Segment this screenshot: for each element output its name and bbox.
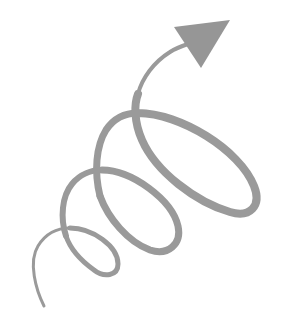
- spiral-loop-medium: [100, 170, 179, 252]
- spiral-arrow-icon: [0, 0, 282, 325]
- illustration-canvas: [0, 0, 282, 325]
- spiral-shaft: [138, 44, 188, 94]
- spiral-tail: [33, 228, 70, 306]
- spiral-connector-2: [97, 113, 138, 196]
- spiral-loop-small: [66, 228, 118, 275]
